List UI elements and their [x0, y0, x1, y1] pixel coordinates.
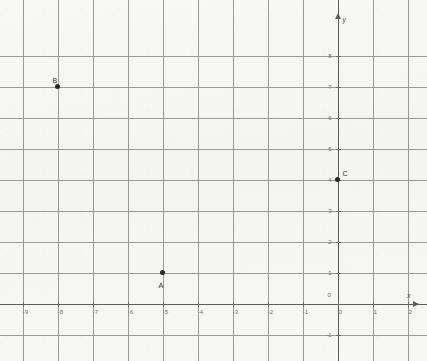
y-tick-label: 7: [316, 84, 332, 90]
y-tick-mark: [336, 335, 341, 336]
x-tick-label: -1: [298, 309, 314, 315]
x-tick-label: -8: [53, 309, 69, 315]
y-tick-mark: [336, 118, 341, 119]
x-tick-label: -2: [263, 309, 279, 315]
plotted-point-a[interactable]: [160, 270, 165, 275]
plotted-point-b[interactable]: [55, 84, 60, 89]
grid-line-horizontal: [0, 56, 427, 57]
x-tick-mark: [58, 302, 59, 307]
grid-line-horizontal: [0, 242, 427, 243]
y-axis-arrow-icon: [335, 13, 341, 19]
x-tick-mark: [373, 302, 374, 307]
x-tick-label: -6: [123, 309, 139, 315]
x-tick-label: -9: [18, 309, 34, 315]
y-axis-label: y: [343, 16, 347, 23]
y-tick-label: 4: [316, 177, 332, 183]
y-tick-label: -1: [316, 332, 332, 338]
y-tick-mark: [336, 304, 341, 305]
y-tick-label: 1: [316, 270, 332, 276]
x-tick-mark: [163, 302, 164, 307]
x-tick-mark: [233, 302, 234, 307]
y-tick-mark: [336, 242, 341, 243]
y-tick-label: 2: [316, 239, 332, 245]
x-tick-label: -3: [228, 309, 244, 315]
coordinate-plane: x y 0 -9-8-7-6-5-4-3-2-1012 -112345678 A…: [0, 0, 427, 361]
x-tick-mark: [198, 302, 199, 307]
x-tick-mark: [408, 302, 409, 307]
x-axis-arrow-icon: [413, 301, 419, 307]
grid-line-horizontal: [0, 180, 427, 181]
y-tick-label: 8: [316, 53, 332, 59]
x-tick-mark: [303, 302, 304, 307]
x-tick-label: 2: [403, 309, 419, 315]
origin-label: 0: [328, 292, 331, 298]
x-tick-label: 1: [368, 309, 384, 315]
x-tick-mark: [268, 302, 269, 307]
grid-line-horizontal: [0, 118, 427, 119]
x-axis-line: [0, 304, 427, 305]
x-tick-mark: [93, 302, 94, 307]
y-tick-mark: [336, 149, 341, 150]
y-tick-label: 3: [316, 208, 332, 214]
y-tick-mark: [336, 56, 341, 57]
grid-line-horizontal: [0, 211, 427, 212]
y-tick-mark: [336, 211, 341, 212]
x-tick-label: 0: [333, 309, 349, 315]
x-tick-label: -7: [88, 309, 104, 315]
x-axis-label: x: [407, 292, 411, 299]
x-tick-mark: [128, 302, 129, 307]
point-label-b: B: [53, 77, 58, 84]
x-tick-label: -5: [158, 309, 174, 315]
y-tick-mark: [336, 87, 341, 88]
grid-line-horizontal: [0, 335, 427, 336]
plotted-point-c[interactable]: [335, 177, 340, 182]
y-tick-mark: [336, 273, 341, 274]
point-label-a: A: [159, 282, 164, 289]
x-tick-mark: [23, 302, 24, 307]
grid-line-horizontal: [0, 149, 427, 150]
x-tick-label: -4: [193, 309, 209, 315]
grid-line-horizontal: [0, 87, 427, 88]
point-label-c: C: [343, 170, 348, 177]
y-tick-label: 5: [316, 146, 332, 152]
y-tick-label: 6: [316, 115, 332, 121]
grid-line-horizontal: [0, 273, 427, 274]
